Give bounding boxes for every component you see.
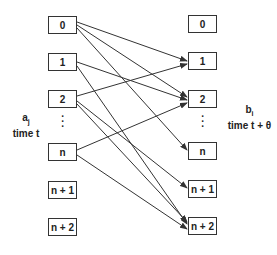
left-label: aj time t bbox=[4, 112, 48, 140]
left-box-2: 2 bbox=[48, 90, 77, 108]
right-label-time: time t + θ bbox=[228, 120, 271, 131]
right-box-0: 0 bbox=[188, 15, 217, 33]
right-box-n1: n + 1 bbox=[188, 180, 217, 198]
edge-2-n1 bbox=[77, 101, 187, 188]
left-label-sub: j bbox=[28, 118, 30, 125]
right-box-1: 1 bbox=[188, 52, 217, 70]
right-ellipsis: ··· bbox=[198, 114, 208, 129]
left-box-n2: n + 2 bbox=[48, 218, 77, 236]
edge-0-2 bbox=[77, 25, 187, 97]
right-label: bi time t + θ bbox=[222, 104, 277, 132]
edge-n-2 bbox=[77, 103, 187, 150]
left-box-n: n bbox=[48, 143, 77, 161]
left-box-0: 0 bbox=[48, 16, 77, 34]
edge-0-1 bbox=[77, 22, 187, 61]
left-label-time: time t bbox=[13, 128, 40, 139]
edge-2-n2 bbox=[77, 104, 187, 222]
left-box-n1: n + 1 bbox=[48, 181, 77, 199]
edge-2-1 bbox=[77, 64, 187, 96]
left-ellipsis: ··· bbox=[58, 114, 68, 129]
edge-1-2 bbox=[77, 62, 187, 100]
right-label-sub: i bbox=[252, 110, 254, 117]
left-box-1: 1 bbox=[48, 53, 77, 71]
right-box-n: n bbox=[188, 142, 217, 160]
right-box-2: 2 bbox=[188, 90, 217, 108]
right-box-n2: n + 2 bbox=[188, 217, 217, 235]
edge-n-n2 bbox=[77, 155, 187, 229]
